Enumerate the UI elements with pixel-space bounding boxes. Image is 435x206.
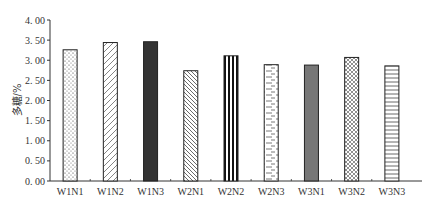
x-tick-label: W2N1 [177,186,204,197]
bar-w1n2 [103,43,117,181]
x-tick-label: W3N2 [338,186,365,197]
x-tick-label: W3N3 [379,186,406,197]
bar-w2n1 [184,71,198,181]
y-tick-label: 0. 50 [25,155,45,166]
y-tick-label: 1. 50 [25,115,45,126]
y-tick-label: 3. 00 [25,55,45,66]
bar-w2n3 [264,65,278,181]
y-axis: 0. 000. 501. 001. 502. 002. 503. 003. 50… [25,15,50,187]
y-axis-title: 多糖/% [11,84,23,117]
bar-w3n2 [345,57,359,181]
x-tick-label: W2N2 [218,186,245,197]
x-tick-label: W1N1 [57,186,84,197]
x-tick-label: W1N2 [97,186,124,197]
bar-w2n2 [224,56,238,181]
y-tick-label: 1. 00 [25,135,45,146]
bar-w3n1 [304,65,318,181]
bar-w3n3 [385,66,399,181]
y-tick-label: 4. 00 [25,15,45,26]
x-tick-label: W2N3 [258,186,285,197]
y-tick-label: 3. 50 [25,35,45,46]
y-tick-label: 0. 00 [25,176,45,187]
x-tick-label: W1N3 [137,186,164,197]
bar-w1n3 [144,42,158,181]
bar-w1n1 [63,50,77,181]
y-tick-label: 2. 50 [25,75,45,86]
bars: W1N1W1N2W1N3W2N1W2N2W2N3W3N1W3N2W3N3 [57,42,405,197]
y-tick-label: 2. 00 [25,95,45,106]
x-tick-label: W3N1 [298,186,325,197]
bar-chart: 0. 000. 501. 001. 502. 002. 503. 003. 50… [0,0,435,206]
